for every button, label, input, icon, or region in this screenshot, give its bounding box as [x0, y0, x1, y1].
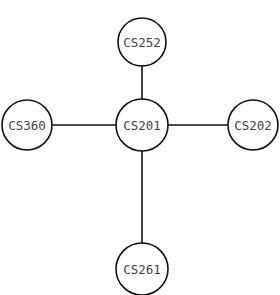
node-cs201: CS201 — [116, 99, 168, 151]
node-cs252: CS252 — [118, 18, 166, 66]
node-cs360: CS360 — [2, 100, 52, 150]
node-label: CS261 — [123, 262, 161, 277]
node-label: CS252 — [123, 35, 161, 50]
node-cs261: CS261 — [116, 243, 168, 295]
node-label: CS202 — [234, 118, 272, 133]
node-label: CS201 — [123, 118, 161, 133]
prerequisite-graph: CS252CS360CS201CS202CS261 — [0, 0, 280, 295]
node-cs202: CS202 — [228, 100, 278, 150]
node-label: CS360 — [8, 118, 46, 133]
